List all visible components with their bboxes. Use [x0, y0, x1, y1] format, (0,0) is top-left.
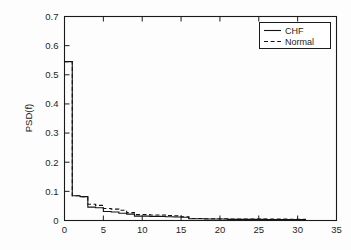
x-tick-label: 10 [137, 224, 148, 235]
x-axis-tick-labels: 05101520253035 [62, 224, 342, 235]
x-tick-label: 30 [292, 224, 303, 235]
y-axis-tickmarks [65, 17, 70, 221]
legend: CHF Normal [260, 23, 331, 49]
y-tick-label: 0.7 [45, 11, 58, 22]
psd-line-chart: 00.10.20.30.40.50.60.7 05101520253035 PS… [0, 0, 351, 250]
y-tick-label: 0.2 [45, 157, 58, 168]
y-tick-label: 0.4 [45, 98, 58, 109]
x-tick-label: 5 [101, 224, 106, 235]
series-line-normal [65, 62, 306, 221]
y-axis-title: PSD(f) [23, 104, 34, 133]
y-tick-label: 0.6 [45, 40, 58, 51]
y-tick-label: 0 [53, 215, 58, 226]
y-tick-label: 0.3 [45, 127, 58, 138]
x-tick-label: 25 [253, 224, 264, 235]
x-tick-label: 35 [331, 224, 342, 235]
series-line-chf [65, 62, 306, 221]
x-tick-label: 20 [215, 224, 226, 235]
legend-label-chf: CHF [285, 26, 304, 36]
y-axis-tick-labels: 00.10.20.30.40.50.60.7 [45, 11, 58, 226]
y-tick-label: 0.1 [45, 186, 58, 197]
chart-figure: 00.10.20.30.40.50.60.7 05101520253035 PS… [0, 0, 351, 250]
x-tick-label: 0 [62, 224, 67, 235]
y-tick-label: 0.5 [45, 69, 58, 80]
legend-label-normal: Normal [285, 37, 314, 47]
x-tick-label: 15 [176, 224, 187, 235]
